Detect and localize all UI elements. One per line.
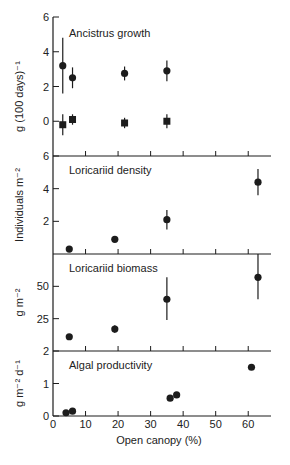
panel-title: Ancistrus growth	[69, 27, 150, 39]
data-point-square	[59, 121, 66, 128]
panel-title: Algal productivity	[69, 359, 153, 371]
y-tick-label: 4	[43, 46, 49, 58]
data-point-circle	[163, 67, 170, 74]
panel-loricariid-biomass: 2550Loricariid biomassg m⁻²	[13, 254, 271, 351]
data-point-circle	[66, 246, 73, 253]
x-axis-label: Open canopy (%)	[116, 434, 202, 446]
y-axis-label: Individuals m⁻²	[13, 168, 25, 242]
y-tick-label: 6	[43, 11, 49, 23]
data-point-circle	[254, 179, 261, 186]
x-tick-label: 50	[210, 418, 222, 430]
data-point-circle	[248, 364, 255, 371]
x-tick-label: 30	[144, 418, 156, 430]
data-point-circle	[163, 296, 170, 303]
y-tick-label: 2	[43, 81, 49, 93]
data-point-square	[69, 116, 76, 123]
data-point-square	[121, 119, 128, 126]
data-point-circle	[121, 70, 128, 77]
panel-algal-productivity: 012Algal productivityg m⁻² d⁻¹	[13, 345, 271, 422]
panel-loricariid-density: 246Loricariid densityIndividuals m⁻²	[13, 150, 271, 254]
y-tick-label: 2	[43, 345, 49, 357]
y-tick-label: 2	[43, 215, 49, 227]
panel-ancistrus-growth: 0246Ancistrus growthg (100 days)⁻¹	[13, 11, 271, 156]
panel-title: Loricariid biomass	[69, 262, 158, 274]
data-point-circle	[167, 395, 174, 402]
x-tick-label: 0	[50, 418, 56, 430]
y-axis-label: g m⁻²	[13, 288, 25, 316]
y-tick-label: 25	[37, 313, 49, 325]
x-tick-label: 40	[177, 418, 189, 430]
data-point-circle	[62, 409, 69, 416]
panel-title: Loricariid density	[69, 164, 152, 176]
y-tick-label: 0	[43, 410, 49, 422]
y-axis-label: g m⁻² d⁻¹	[13, 360, 25, 407]
y-tick-label: 0	[43, 115, 49, 127]
y-axis-label: g (100 days)⁻¹	[13, 61, 25, 132]
data-point-circle	[111, 236, 118, 243]
x-tick-label: 10	[79, 418, 91, 430]
data-point-circle	[69, 74, 76, 81]
data-point-circle	[173, 391, 180, 398]
y-tick-label: 1	[43, 378, 49, 390]
data-point-circle	[59, 62, 66, 69]
y-tick-label: 6	[43, 150, 49, 162]
multi-panel-chart: 0246Ancistrus growthg (100 days)⁻¹246Lor…	[0, 0, 290, 465]
data-point-circle	[111, 325, 118, 332]
data-point-circle	[254, 274, 261, 281]
data-point-square	[163, 118, 170, 125]
x-tick-label: 60	[242, 418, 254, 430]
data-point-circle	[69, 408, 76, 415]
data-point-circle	[66, 333, 73, 340]
x-tick-label: 20	[112, 418, 124, 430]
y-tick-label: 50	[37, 280, 49, 292]
data-point-circle	[163, 216, 170, 223]
y-tick-label: 4	[43, 183, 49, 195]
